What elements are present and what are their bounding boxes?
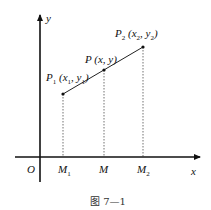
label-m: M (98, 163, 109, 175)
figure-caption: 图 7—1 (90, 196, 126, 207)
point-p (102, 68, 105, 71)
svg-text:P (x, y): P (x, y) (84, 53, 117, 66)
svg-text:P2 (x2, y2): P2 (x2, y2) (114, 27, 158, 42)
label-m1: M1 (57, 163, 71, 178)
diagram-canvas: y x O P1 (x1, y1) P (x, y) P2 (x2, y2) M… (0, 0, 211, 210)
label-m2: M2 (136, 163, 150, 178)
origin-label: O (27, 163, 35, 175)
y-axis-label: y (45, 12, 51, 24)
x-axis-label: x (190, 165, 196, 177)
label-p1: P1 (x1, y1) (45, 71, 89, 86)
coordinate-diagram: y x O P1 (x1, y1) P (x, y) P2 (x2, y2) M… (0, 0, 211, 210)
label-p: P (x, y) (84, 53, 117, 66)
svg-text:P1 (x1, y1): P1 (x1, y1) (45, 71, 89, 86)
label-p2: P2 (x2, y2) (114, 27, 158, 42)
point-p1 (61, 92, 64, 95)
point-p2 (141, 45, 144, 48)
